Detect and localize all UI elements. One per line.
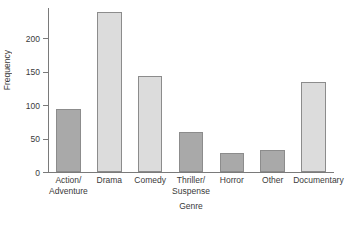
bar — [301, 82, 326, 172]
x-axis-tick-label: Action/Adventure — [48, 175, 89, 196]
bar-slot — [301, 8, 326, 172]
y-axis-tick-label: 150 — [26, 68, 40, 77]
x-axis-tick-label: Comedy — [130, 175, 171, 186]
bar — [260, 150, 285, 172]
x-axis-line — [48, 172, 334, 173]
bar — [179, 132, 204, 172]
x-axis-tick-label: Drama — [89, 175, 130, 186]
y-axis-tick-label: 200 — [26, 34, 40, 43]
bar-chart-figure: Frequency 050100150200 Action/AdventureD… — [0, 0, 347, 227]
bar — [97, 12, 122, 172]
bar-slot — [138, 8, 163, 172]
y-axis-tick: 0 — [43, 172, 48, 173]
x-axis-tick-label: Horror — [211, 175, 252, 186]
x-axis-tick-label: Other — [252, 175, 293, 186]
bar — [220, 153, 245, 172]
bar-slot — [56, 8, 81, 172]
bar-slot — [97, 8, 122, 172]
x-axis-tick-label: Thriller/Suspense — [171, 175, 212, 196]
y-axis-tick-label: 50 — [31, 135, 40, 144]
x-axis-tick-label: Documentary — [293, 175, 334, 186]
bar — [56, 109, 81, 172]
y-axis-tick-label: 100 — [26, 101, 40, 110]
bar-slot — [179, 8, 204, 172]
bar-slot — [220, 8, 245, 172]
y-axis-title: Frequency — [3, 50, 17, 90]
y-axis-tick-label: 0 — [35, 168, 40, 177]
bar-series — [48, 8, 334, 172]
x-axis-tick-labels: Action/AdventureDramaComedyThriller/Susp… — [48, 175, 334, 201]
bar-slot — [260, 8, 285, 172]
bar — [138, 76, 163, 172]
x-axis-title: Genre — [48, 202, 334, 211]
